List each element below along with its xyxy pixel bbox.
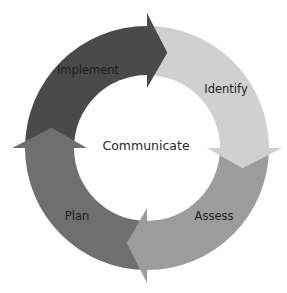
stage-label-plan: Plan xyxy=(65,209,89,223)
cycle-ring: Implement Identify Assess Plan Communica… xyxy=(0,0,287,293)
cycle-diagram: Implement Identify Assess Plan Communica… xyxy=(0,0,287,293)
stage-arrow-body-implement xyxy=(25,26,147,148)
center-label: Communicate xyxy=(102,138,189,153)
stage-label-identify: Identify xyxy=(204,82,248,96)
stage-label-assess: Assess xyxy=(195,209,234,223)
stage-label-implement: Implement xyxy=(57,63,120,77)
